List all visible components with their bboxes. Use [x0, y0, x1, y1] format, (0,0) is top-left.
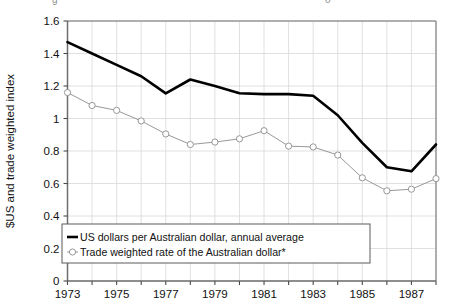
y-axis-title: $US and trade weighted index: [4, 74, 16, 228]
x-tick-label: 1987: [399, 288, 425, 300]
y-tick-label: 0.8: [44, 145, 60, 157]
data-point-marker: [64, 89, 70, 95]
y-tick-label: 0.2: [44, 243, 60, 255]
data-point-marker: [408, 186, 414, 192]
x-tick-label: 1979: [202, 288, 228, 300]
chart-figure: g o 00.20.40.60.811.21.41.6 197319751977…: [0, 0, 450, 307]
y-tick-label: 1.4: [44, 48, 61, 60]
y-axis-title-text: $US and trade weighted index: [4, 74, 16, 228]
data-point-marker: [163, 131, 169, 137]
y-tick-label: 1.6: [44, 15, 60, 27]
line-chart: 00.20.40.60.811.21.41.6 1973197519771979…: [0, 0, 450, 307]
legend-swatch-circle-icon: [69, 249, 75, 255]
chart-legend: US dollars per Australian dollar, annual…: [62, 224, 370, 263]
data-point-marker: [384, 188, 390, 194]
data-point-marker: [236, 136, 242, 142]
series-line-1: [68, 42, 437, 171]
data-point-marker: [89, 102, 95, 108]
data-point-marker: [335, 152, 341, 158]
data-point-marker: [433, 176, 439, 182]
x-tick-label: 1975: [104, 288, 130, 300]
series-line-2: [68, 93, 437, 191]
data-point-marker: [138, 118, 144, 124]
y-tick-label: 0.6: [44, 178, 60, 190]
legend-label-2: Trade weighted rate of the Australian do…: [80, 246, 286, 258]
x-tick-label: 1985: [350, 288, 376, 300]
data-point-marker: [359, 175, 365, 181]
series-layer: [64, 42, 439, 194]
legend-label-1: US dollars per Australian dollar, annual…: [80, 231, 304, 243]
data-point-marker: [310, 144, 316, 150]
x-tick-label: 1983: [300, 288, 326, 300]
data-point-marker: [114, 107, 120, 113]
x-tick-label: 1973: [55, 288, 81, 300]
y-tick-label: 1.2: [44, 80, 60, 92]
y-tick-label: 0.4: [44, 210, 61, 222]
data-point-marker: [261, 128, 267, 134]
data-point-marker: [212, 139, 218, 145]
x-tick-label: 1981: [251, 288, 277, 300]
data-point-marker: [286, 143, 292, 149]
data-point-marker: [187, 141, 193, 147]
y-tick-label: 0: [53, 275, 59, 287]
y-tick-label: 1: [53, 113, 59, 125]
x-axis-ticks: 19731975197719791981198319851987: [55, 281, 436, 300]
x-tick-label: 1977: [153, 288, 179, 300]
